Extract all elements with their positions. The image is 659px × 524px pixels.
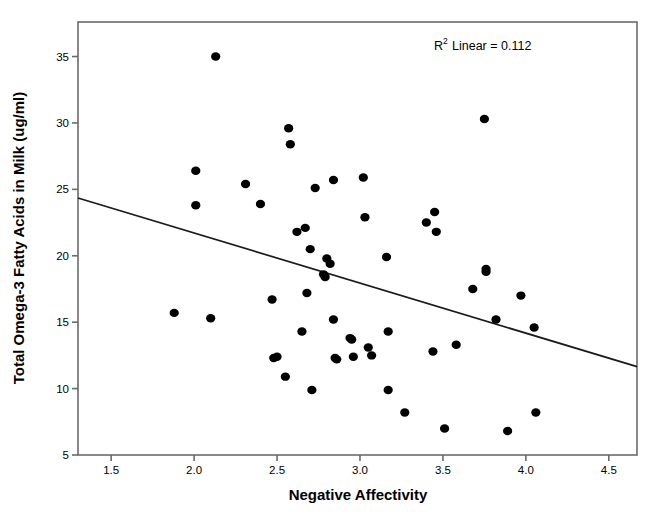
data-point xyxy=(301,224,310,232)
x-axis-title: Negative Affectivity xyxy=(289,486,428,503)
x-tick-label: 3.0 xyxy=(352,464,368,476)
r-squared-exponent: 2 xyxy=(443,36,448,46)
data-point xyxy=(206,314,215,322)
data-point xyxy=(384,327,393,335)
data-point xyxy=(332,355,341,363)
data-point xyxy=(360,213,369,221)
data-point xyxy=(481,267,490,275)
x-tick-label: 1.5 xyxy=(103,464,119,476)
y-axis-title: Total Omega-3 Fatty Acids in Milk (ug/ml… xyxy=(10,92,27,385)
x-tick-label: 2.0 xyxy=(186,464,202,476)
data-point xyxy=(284,124,293,132)
data-point xyxy=(286,140,295,148)
data-point xyxy=(241,180,250,188)
y-tick-label: 30 xyxy=(56,117,69,129)
data-point xyxy=(267,295,276,303)
data-point xyxy=(311,184,320,192)
data-point xyxy=(191,201,200,209)
y-tick-label: 20 xyxy=(56,250,69,262)
data-point xyxy=(349,352,358,360)
data-point xyxy=(432,228,441,236)
x-tick-label: 4.5 xyxy=(601,464,617,476)
data-point xyxy=(440,424,449,432)
plot-canvas: 1.52.02.53.03.54.04.5 5101520253035 Nega… xyxy=(0,0,659,524)
data-point xyxy=(347,335,356,343)
data-point xyxy=(170,309,179,317)
r-squared-base: R xyxy=(434,39,443,53)
data-point xyxy=(428,347,437,355)
y-tick-label: 15 xyxy=(56,316,69,328)
data-point xyxy=(480,115,489,123)
y-tick-label: 35 xyxy=(56,51,69,63)
data-point xyxy=(329,176,338,184)
data-point xyxy=(306,245,315,253)
y-axis-ticks: 5101520253035 xyxy=(56,51,78,461)
data-point xyxy=(384,386,393,394)
data-point xyxy=(364,343,373,351)
data-point xyxy=(516,291,525,299)
data-point xyxy=(321,273,330,281)
data-point xyxy=(503,427,512,435)
data-point xyxy=(430,208,439,216)
data-point xyxy=(292,228,301,236)
data-point xyxy=(452,341,461,349)
data-point xyxy=(256,200,265,208)
data-point xyxy=(531,408,540,416)
data-point xyxy=(191,167,200,175)
data-point xyxy=(326,260,335,268)
x-tick-label: 2.5 xyxy=(269,464,285,476)
data-point xyxy=(491,315,500,323)
y-tick-label: 5 xyxy=(63,449,69,461)
data-point xyxy=(400,408,409,416)
data-point xyxy=(359,173,368,181)
y-tick-label: 25 xyxy=(56,183,69,195)
data-point xyxy=(302,289,311,297)
data-point xyxy=(329,315,338,323)
data-point xyxy=(281,372,290,380)
data-point xyxy=(422,218,431,226)
data-point xyxy=(211,52,220,60)
r-squared-value-text: Linear = 0.112 xyxy=(452,39,531,53)
data-point xyxy=(297,327,306,335)
plot-frame xyxy=(78,22,637,455)
x-axis-ticks: 1.52.02.53.03.54.04.5 xyxy=(103,455,617,476)
y-tick-label: 10 xyxy=(56,383,69,395)
data-point xyxy=(530,323,539,331)
scatter-plot-figure: 1.52.02.53.03.54.04.5 5101520253035 Nega… xyxy=(0,0,659,524)
x-tick-label: 3.5 xyxy=(435,464,451,476)
data-point xyxy=(367,351,376,359)
data-point xyxy=(272,352,281,360)
data-point xyxy=(307,386,316,394)
x-tick-label: 4.0 xyxy=(518,464,534,476)
data-point xyxy=(382,253,391,261)
data-point xyxy=(468,285,477,293)
